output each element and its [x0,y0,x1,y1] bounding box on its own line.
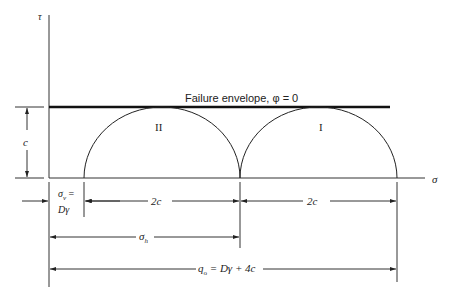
sigma-v-label: σv = Dγ [58,188,74,215]
mohr-circle-II [84,107,240,178]
q0-label: qo = Dγ + 4c [198,263,256,277]
sigma-axis-label: σ [432,174,437,185]
cohesion-label: c [23,137,28,148]
two-c-right-label: 2c [307,196,317,207]
circle-II-label: II [155,122,162,133]
envelope-label: Failure envelope, φ = 0 [185,93,298,104]
tau-axis-label: τ [38,12,42,22]
mohr-circle-I [240,107,397,178]
sigma-h-label: σh [139,231,148,245]
circle-I-label: I [319,122,323,133]
two-c-left-label: 2c [151,196,161,207]
mohr-diagram [0,0,450,300]
